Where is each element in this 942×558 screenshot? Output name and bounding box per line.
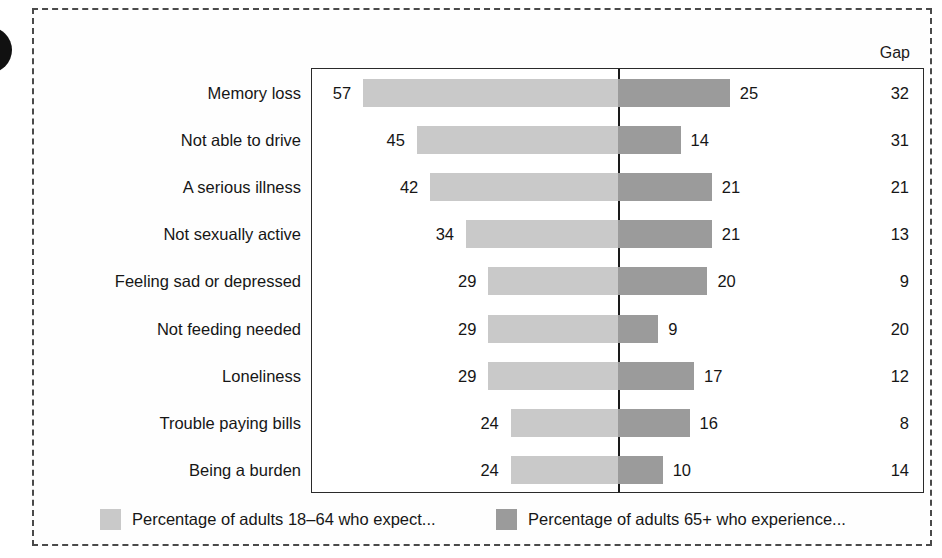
legend-item: Percentage of adults 65+ who experience.… xyxy=(496,509,846,530)
chart-page: Gap Memory loss572532Not able to drive45… xyxy=(0,0,942,558)
bar-right-value: 10 xyxy=(673,461,691,480)
bar-right-value: 21 xyxy=(722,225,740,244)
bar-left-18-64 xyxy=(511,456,618,484)
row-category-label: Loneliness xyxy=(222,366,301,385)
bar-row: Not sexually active342113 xyxy=(312,211,923,258)
bar-left-value: 29 xyxy=(458,366,476,385)
row-category-label: Feeling sad or depressed xyxy=(115,272,301,291)
bar-right-value: 17 xyxy=(704,366,722,385)
bar-right-65-plus xyxy=(618,456,663,484)
bar-left-18-64 xyxy=(488,267,618,295)
bar-row: Feeling sad or depressed29209 xyxy=(312,258,923,305)
edge-circle-decoration xyxy=(0,27,12,73)
bar-row: A serious illness422121 xyxy=(312,163,923,210)
gap-value: 9 xyxy=(839,272,909,291)
bar-right-value: 9 xyxy=(668,319,677,338)
bar-right-value: 16 xyxy=(700,413,718,432)
figure-frame: Gap Memory loss572532Not able to drive45… xyxy=(32,8,932,546)
bar-left-value: 24 xyxy=(480,413,498,432)
gap-value: 20 xyxy=(839,319,909,338)
bar-left-18-64 xyxy=(430,173,618,201)
chart-legend: Percentage of adults 18–64 who expect...… xyxy=(100,509,940,535)
gap-value: 12 xyxy=(839,366,909,385)
bar-left-value: 34 xyxy=(436,225,454,244)
bar-left-value: 57 xyxy=(333,83,351,102)
bar-row: Being a burden241014 xyxy=(312,447,923,494)
bar-left-18-64 xyxy=(363,79,618,107)
bar-right-65-plus xyxy=(618,315,658,343)
bar-right-65-plus xyxy=(618,79,730,107)
bar-right-value: 21 xyxy=(722,177,740,196)
bar-row: Loneliness291712 xyxy=(312,352,923,399)
legend-label: Percentage of adults 18–64 who expect... xyxy=(132,510,436,529)
bar-right-value: 25 xyxy=(740,83,758,102)
bar-right-65-plus xyxy=(618,126,681,154)
bar-right-value: 14 xyxy=(691,130,709,149)
bar-left-value: 24 xyxy=(480,461,498,480)
gap-value: 14 xyxy=(839,461,909,480)
row-category-label: Being a burden xyxy=(189,461,301,480)
bar-left-18-64 xyxy=(417,126,618,154)
bar-row: Memory loss572532 xyxy=(312,69,923,116)
row-category-label: Not feeding needed xyxy=(157,319,301,338)
bar-left-value: 45 xyxy=(387,130,405,149)
row-category-label: Memory loss xyxy=(207,83,301,102)
bar-right-65-plus xyxy=(618,409,690,437)
bar-right-65-plus xyxy=(618,220,712,248)
gap-value: 21 xyxy=(839,177,909,196)
gap-column-header: Gap xyxy=(824,44,910,62)
bar-left-18-64 xyxy=(488,315,618,343)
row-category-label: Not sexually active xyxy=(163,225,301,244)
gap-value: 32 xyxy=(839,83,909,102)
row-category-label: Trouble paying bills xyxy=(159,413,301,432)
bar-right-value: 20 xyxy=(717,272,735,291)
legend-item: Percentage of adults 18–64 who expect... xyxy=(100,509,436,530)
bar-left-18-64 xyxy=(511,409,618,437)
bar-left-18-64 xyxy=(488,362,618,390)
bar-row: Not feeding needed29920 xyxy=(312,305,923,352)
gap-value: 31 xyxy=(839,130,909,149)
bar-right-65-plus xyxy=(618,362,694,390)
bar-left-18-64 xyxy=(466,220,618,248)
row-category-label: A serious illness xyxy=(183,177,301,196)
bar-right-65-plus xyxy=(618,173,712,201)
bar-left-value: 29 xyxy=(458,272,476,291)
gap-value: 8 xyxy=(839,413,909,432)
bar-right-65-plus xyxy=(618,267,707,295)
row-category-label: Not able to drive xyxy=(181,130,301,149)
legend-swatch-icon xyxy=(496,509,517,530)
bar-row: Not able to drive451431 xyxy=(312,116,923,163)
bar-left-value: 42 xyxy=(400,177,418,196)
plot-area: Memory loss572532Not able to drive451431… xyxy=(311,68,924,493)
legend-swatch-icon xyxy=(100,509,121,530)
legend-label: Percentage of adults 65+ who experience.… xyxy=(528,510,846,529)
bar-left-value: 29 xyxy=(458,319,476,338)
gap-value: 13 xyxy=(839,225,909,244)
bar-row: Trouble paying bills24168 xyxy=(312,399,923,446)
